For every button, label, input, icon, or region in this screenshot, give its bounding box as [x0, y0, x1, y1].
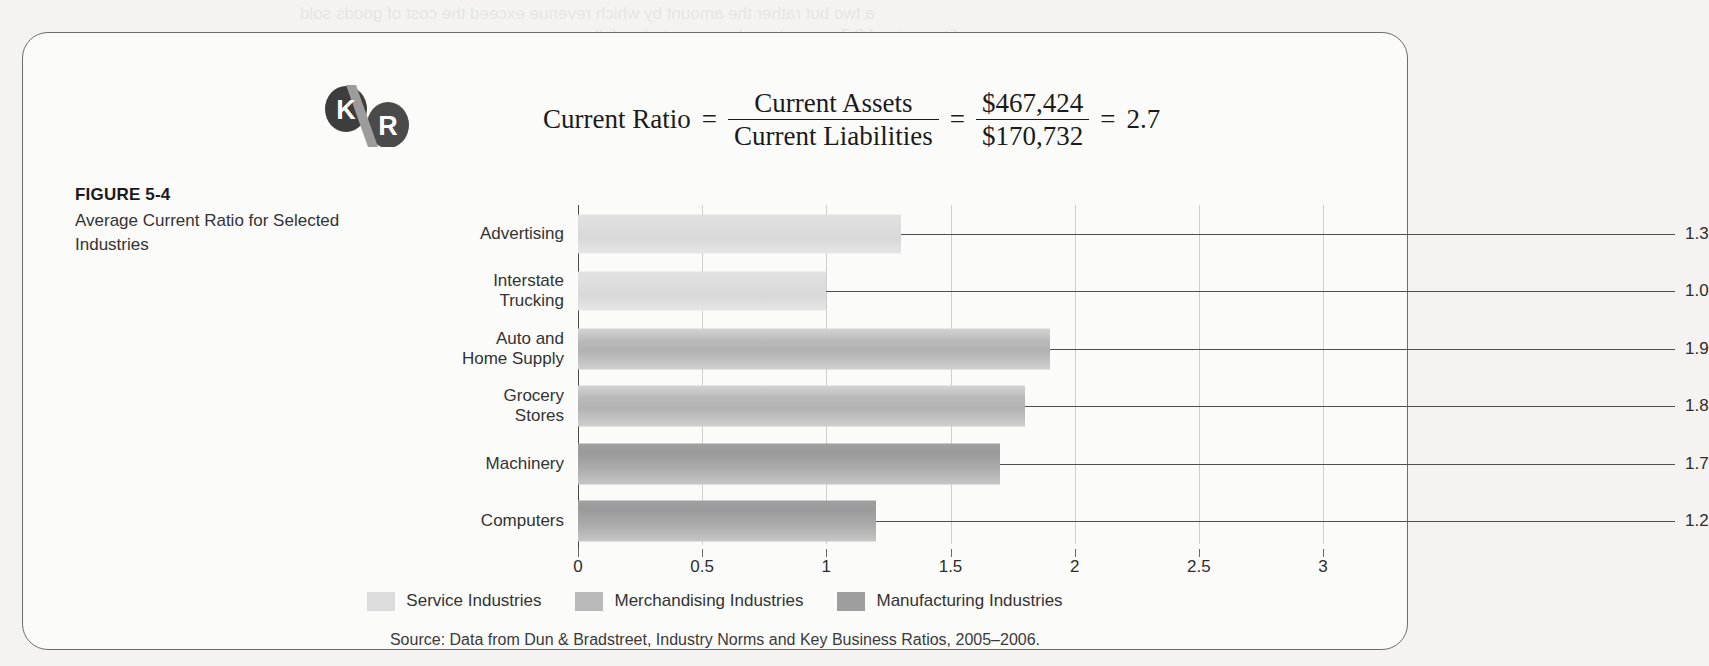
kr-logo: K R	[316, 85, 436, 147]
bar	[578, 214, 901, 253]
value-leader-line	[826, 291, 1675, 292]
chart-row: Machinery1.7	[578, 435, 1683, 493]
legend-item: Service Industries	[367, 591, 541, 611]
category-label: InterstateTrucking	[493, 271, 564, 311]
value-leader-line	[876, 521, 1675, 522]
x-axis-tick	[1075, 549, 1076, 557]
formula-fraction-words: Current Assets Current Liabilities	[728, 88, 939, 151]
value-leader-line	[1050, 349, 1675, 350]
legend-item: Manufacturing Industries	[837, 591, 1062, 611]
chart-row: GroceryStores1.8	[578, 378, 1683, 436]
bar	[578, 501, 876, 542]
chart-legend: Service IndustriesMerchandising Industri…	[45, 591, 1385, 611]
category-label: GroceryStores	[504, 386, 564, 426]
value-leader-line	[901, 234, 1675, 235]
chart-row: Auto andHome Supply1.9	[578, 320, 1683, 378]
formula-denominator-value: $170,732	[976, 119, 1089, 151]
legend-swatch	[575, 592, 603, 611]
figure-title: Average Current Ratio for Selected Indus…	[75, 209, 375, 257]
formula-denominator-words: Current Liabilities	[728, 119, 939, 151]
legend-label: Manufacturing Industries	[876, 591, 1062, 611]
x-tick-label: 0.5	[690, 557, 714, 577]
figure-number: FIGURE 5-4	[75, 185, 375, 205]
bar	[578, 328, 1050, 369]
plot-area: Advertising1.3InterstateTrucking1.0Auto …	[578, 205, 1323, 550]
figure-frame: K R Current Ratio = Current Assets Curre…	[22, 32, 1408, 650]
formula-numerator-words: Current Assets	[748, 88, 918, 119]
value-leader-line	[1000, 464, 1675, 465]
formula-result: 2.7	[1126, 104, 1160, 135]
x-tick-label: 1	[822, 557, 831, 577]
bar-value-label: 1.0	[1685, 281, 1709, 301]
category-label: Computers	[481, 511, 564, 531]
formula-equals-3: =	[1098, 104, 1117, 135]
x-axis-tick	[578, 549, 579, 557]
chart-row: Computers1.2	[578, 493, 1683, 551]
bleed-line: a two but rather the amount by which rev…	[300, 4, 875, 24]
legend-label: Merchandising Industries	[614, 591, 803, 611]
legend-item: Merchandising Industries	[575, 591, 803, 611]
svg-text:K: K	[336, 95, 356, 125]
x-axis-tick	[951, 549, 952, 557]
figure-caption: FIGURE 5-4 Average Current Ratio for Sel…	[75, 185, 375, 257]
x-axis-tick	[1199, 549, 1200, 557]
x-axis-tick	[826, 549, 827, 557]
bar-value-label: 1.7	[1685, 454, 1709, 474]
legend-label: Service Industries	[406, 591, 541, 611]
x-tick-label: 2.5	[1187, 557, 1211, 577]
chart-row: InterstateTrucking1.0	[578, 263, 1683, 321]
current-ratio-formula: Current Ratio = Current Assets Current L…	[543, 88, 1160, 151]
x-tick-label: 2	[1070, 557, 1079, 577]
legend-swatch	[837, 592, 865, 611]
bar-chart: Advertising1.3InterstateTrucking1.0Auto …	[383, 205, 1403, 555]
bar	[578, 443, 1000, 484]
bar	[578, 386, 1025, 427]
value-leader-line	[1025, 406, 1675, 407]
bar	[578, 272, 826, 311]
category-label: Auto andHome Supply	[462, 329, 564, 369]
x-tick-label: 1.5	[939, 557, 963, 577]
source-note: Source: Data from Dun & Bradstreet, Indu…	[45, 631, 1385, 649]
x-axis-tick	[1323, 549, 1324, 557]
formula-numerator-value: $467,424	[976, 88, 1089, 119]
formula-label: Current Ratio	[543, 104, 691, 135]
bar-value-label: 1.3	[1685, 224, 1709, 244]
bar-value-label: 1.9	[1685, 339, 1709, 359]
formula-equals-2: =	[948, 104, 967, 135]
x-axis-tick-labels: 00.511.522.53	[578, 557, 1323, 581]
x-tick-label: 0	[573, 557, 582, 577]
x-axis-tick	[702, 549, 703, 557]
legend-swatch	[367, 592, 395, 611]
x-tick-label: 3	[1318, 557, 1327, 577]
bar-value-label: 1.2	[1685, 511, 1709, 531]
chart-row: Advertising1.3	[578, 205, 1683, 263]
category-label: Advertising	[480, 224, 564, 244]
formula-equals-1: =	[700, 104, 719, 135]
bar-value-label: 1.8	[1685, 396, 1709, 416]
svg-text:R: R	[378, 111, 398, 141]
formula-fraction-numbers: $467,424 $170,732	[976, 88, 1089, 151]
category-label: Machinery	[486, 454, 564, 474]
